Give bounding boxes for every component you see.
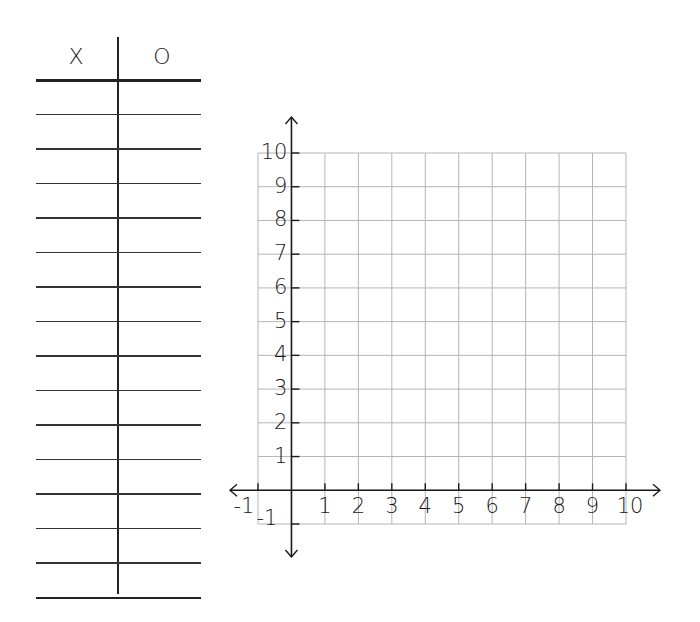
table-cell-x[interactable]	[37, 426, 117, 459]
y-axis-label: 6	[247, 277, 287, 298]
table-cell-o[interactable]	[120, 116, 200, 149]
x-axis-label: 9	[573, 496, 613, 517]
table-cell-x[interactable]	[37, 461, 117, 494]
x-axis-label: 4	[405, 496, 445, 517]
arrow-down-icon	[285, 550, 297, 557]
table-cell-x[interactable]	[37, 530, 117, 563]
table-cell-x[interactable]	[37, 116, 117, 149]
table-cell-x[interactable]	[37, 495, 117, 528]
table-cell-o[interactable]	[120, 495, 200, 528]
arrow-up-icon	[285, 117, 297, 124]
column-divider	[117, 37, 119, 594]
column-header-o: O	[122, 44, 202, 69]
y-axis-label: 5	[247, 311, 287, 332]
table-cell-o[interactable]	[120, 150, 200, 183]
y-axis-label: 8	[247, 209, 287, 230]
y-axis-label: 4	[247, 344, 287, 365]
table-cell-o[interactable]	[120, 357, 200, 390]
table-cell-x[interactable]	[37, 564, 117, 597]
table-cell-x[interactable]	[37, 219, 117, 252]
arrow-right-icon	[653, 484, 660, 496]
table-cell-x[interactable]	[37, 392, 117, 425]
table-cell-x[interactable]	[37, 288, 117, 321]
table-cell-x[interactable]	[37, 323, 117, 356]
x-axis-label: 7	[506, 496, 546, 517]
x-axis-label: 6	[472, 496, 512, 517]
y-axis-label: 9	[247, 176, 287, 197]
table-cell-o[interactable]	[120, 426, 200, 459]
table-cell-o[interactable]	[120, 254, 200, 287]
x-axis-label: 3	[372, 496, 412, 517]
table-cell-o[interactable]	[120, 288, 200, 321]
t-chart-table: X O	[0, 0, 250, 622]
y-axis-label: 7	[247, 243, 287, 264]
table-cell-o[interactable]	[120, 461, 200, 494]
table-cell-x[interactable]	[37, 254, 117, 287]
table-cell-o[interactable]	[120, 323, 200, 356]
table-cell-o[interactable]	[120, 185, 200, 218]
x-axis-label: 8	[539, 496, 579, 517]
x-axis-label: 2	[338, 496, 378, 517]
table-cell-x[interactable]	[37, 185, 117, 218]
table-cell-x[interactable]	[37, 357, 117, 390]
table-cell-x[interactable]	[37, 150, 117, 183]
y-axis-label: 3	[247, 378, 287, 399]
table-cell-o[interactable]	[120, 219, 200, 252]
table-cell-o[interactable]	[120, 392, 200, 425]
column-header-x: X	[36, 44, 116, 69]
y-axis-label: 2	[247, 412, 287, 433]
x-axis-label: 5	[439, 496, 479, 517]
x-axis-label: 10	[610, 496, 650, 517]
table-cell-o[interactable]	[120, 81, 200, 114]
x-axis-label: 1	[305, 496, 345, 517]
y-axis-label: 1	[247, 446, 287, 467]
table-cell-x[interactable]	[37, 81, 117, 114]
table-cell-o[interactable]	[120, 530, 200, 563]
table-cell-o[interactable]	[120, 564, 200, 597]
y-axis-label: 10	[247, 142, 287, 163]
